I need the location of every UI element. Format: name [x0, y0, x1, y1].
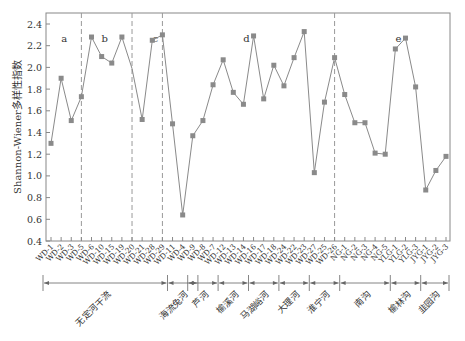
data-point-marker [271, 63, 276, 68]
y-axis-label: Shannon-Wiener多样性指数 [11, 60, 23, 194]
data-point-marker [200, 118, 205, 123]
arrow-right-icon [273, 281, 278, 285]
region-label-a: a [61, 33, 67, 44]
data-point-marker [302, 29, 307, 34]
y-tick-label: 2.2 [27, 40, 42, 51]
region-label-e: e [395, 33, 401, 44]
arrow-right-icon [303, 281, 308, 285]
arrow-left-icon [422, 281, 427, 285]
arrow-left-icon [391, 281, 396, 285]
y-tick-label: 1.6 [27, 105, 42, 116]
data-point-marker [342, 92, 347, 97]
data-point-marker [292, 55, 297, 60]
data-point-marker [160, 32, 165, 37]
data-point-marker [373, 151, 378, 156]
arrow-left-icon [168, 281, 173, 285]
arrow-left-icon [341, 281, 346, 285]
y-tick-label: 0.8 [27, 192, 42, 203]
data-point-marker [362, 120, 367, 125]
arrow-left-icon [44, 281, 49, 285]
data-point-marker [89, 35, 94, 40]
data-point-marker [109, 61, 114, 66]
data-point-marker [352, 120, 357, 125]
arrow-right-icon [212, 281, 217, 285]
data-point-marker [190, 133, 195, 138]
data-point-marker [211, 82, 216, 87]
group-label: 韭园沟 [415, 289, 442, 316]
group-label: 榆林沟 [386, 289, 413, 316]
y-tick-label: 1.0 [27, 170, 42, 181]
data-point-marker [383, 152, 388, 157]
data-point-marker [444, 154, 449, 159]
group-label: 大理河 [275, 289, 302, 316]
region-label-d: d [243, 33, 250, 44]
y-axis-title: Shannon-Wiener多样性指数 [11, 60, 23, 194]
group-label: 海流兔河 [157, 289, 190, 322]
arrow-right-icon [384, 281, 389, 285]
data-point-marker [221, 57, 226, 62]
data-point-marker [99, 54, 104, 59]
group-label: 榆溪河 [214, 289, 241, 316]
y-tick-label: 1.2 [27, 149, 42, 160]
data-point-marker [423, 188, 428, 193]
y-tick-label: 2.0 [27, 62, 42, 73]
y-tick-label: 0.6 [27, 214, 42, 225]
y-tick-label: 0.4 [27, 236, 42, 247]
arrow-left-icon [280, 281, 285, 285]
data-point-marker [322, 100, 327, 105]
arrow-left-icon [189, 281, 194, 285]
region-dividers [81, 13, 334, 241]
plot-border [46, 13, 450, 241]
group-label: 无定河干流 [73, 289, 113, 329]
arrow-right-icon [443, 281, 448, 285]
arrow-right-icon [334, 281, 339, 285]
data-point-marker [241, 102, 246, 107]
arrow-left-icon [310, 281, 315, 285]
data-point-marker [69, 118, 74, 123]
data-point-marker [393, 46, 398, 51]
region-labels: abcde [61, 33, 401, 44]
data-point-marker [150, 38, 155, 43]
y-tick-label: 2.4 [27, 19, 42, 30]
arrow-right-icon [243, 281, 248, 285]
arrow-left-icon [219, 281, 224, 285]
data-point-marker [251, 33, 256, 38]
y-tick-label: 1.4 [27, 127, 42, 138]
y-tick-label: 1.8 [27, 84, 42, 95]
series-line [51, 32, 446, 215]
arrow-right-icon [415, 281, 420, 285]
data-point-marker [261, 96, 266, 101]
data-point-marker [231, 90, 236, 95]
data-point-marker [140, 117, 145, 122]
data-point-marker [403, 36, 408, 41]
region-label-b: b [101, 33, 107, 44]
data-point-marker [332, 55, 337, 60]
data-point-marker [180, 212, 185, 217]
group-brackets: 无定河干流海流兔河芦河榆溪河马湖峪河大理河淮宁河南沟榆林沟韭园沟 [43, 275, 449, 328]
group-label: 芦河 [190, 289, 211, 310]
group-label: 南沟 [352, 289, 373, 310]
data-series [49, 29, 449, 217]
data-point-marker [79, 94, 84, 99]
data-point-marker [59, 76, 64, 81]
data-point-marker [170, 121, 175, 126]
data-point-marker [119, 35, 124, 40]
data-point-marker [281, 83, 286, 88]
data-point-marker [413, 84, 418, 89]
plot-frame [46, 13, 450, 241]
data-point-marker [433, 168, 438, 173]
data-point-marker [312, 170, 317, 175]
line-chart: 0.40.60.81.01.21.41.61.82.02.22.4 Shanno… [0, 0, 465, 341]
y-axis: 0.40.60.81.01.21.41.61.82.02.22.4 [27, 19, 50, 247]
arrow-right-icon [161, 281, 166, 285]
data-point-marker [49, 141, 54, 146]
group-label: 淮宁河 [305, 289, 332, 316]
group-label: 马湖峪河 [238, 289, 271, 322]
arrow-left-icon [250, 281, 255, 285]
